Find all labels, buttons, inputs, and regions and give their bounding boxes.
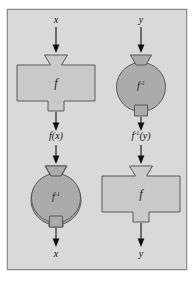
machine-label-finv-sup-bl: -1	[55, 190, 60, 197]
label-right-intermediate-arg: (y)	[139, 130, 150, 141]
arrow-left-output	[53, 228, 60, 247]
arrow-left-mid-upper	[53, 112, 60, 131]
label-left-intermediate-arg: (x)	[52, 130, 63, 141]
machine-label-finv-sup-tr: -1	[140, 79, 145, 86]
label-left-input-x: x	[46, 15, 66, 25]
arrow-left-input	[53, 27, 60, 53]
label-left-intermediate-fx: f(x)	[36, 131, 76, 141]
label-right-input-y: y	[131, 15, 151, 25]
machine-label-f-inverse-top-right: f-1	[131, 81, 151, 91]
arrow-right-input	[138, 27, 145, 53]
machine-label-f-top-left: f	[46, 77, 66, 89]
arrow-left-mid-lower	[53, 145, 60, 164]
machine-label-f-inverse-bottom-left: f-1	[46, 192, 66, 202]
label-left-output-x: x	[46, 249, 66, 259]
label-right-output-y: y	[131, 249, 151, 259]
arrow-right-mid-lower	[138, 145, 145, 164]
label-right-intermediate-finv-y: f-1(y)	[118, 131, 164, 141]
arrow-right-output	[138, 223, 145, 247]
diagram-canvas	[0, 0, 196, 290]
figure-root: x f(x) x y f-1(y) y f f-1 f-1 f	[0, 0, 196, 290]
machine-label-f-bottom-right: f	[131, 188, 151, 200]
